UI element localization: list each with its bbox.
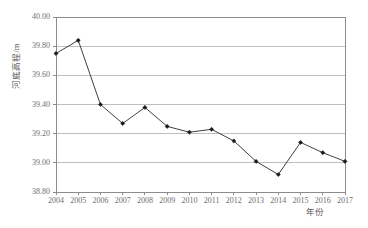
data-point-marker [210,127,214,131]
data-point-marker [76,38,80,42]
data-point-marker [54,51,58,55]
plot-area [0,0,368,228]
data-series-line [56,40,345,174]
data-point-marker [321,151,325,155]
chart-container: 河底高程/m 年份 40.0039.8039.6039.4039.2039.00… [0,0,368,228]
